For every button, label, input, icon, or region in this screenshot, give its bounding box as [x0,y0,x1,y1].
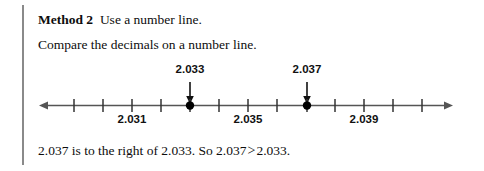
point-marker-2037 [303,101,311,109]
tick-label-2035: 2.035 [234,113,263,125]
number-line-example-panel: Method 2 Use a number line. Compare the … [0,0,484,171]
tick-label-2039: 2.039 [350,113,379,125]
conclusion-prefix: 2.037 is to the right of 2.033. So 2.037 [38,143,247,158]
compare-instruction: Compare the decimals on a number line. [38,38,257,52]
axis-arrow-right [444,102,453,110]
point-marker-2033 [186,101,194,109]
number-line-svg [0,58,484,138]
conclusion-suffix: 2.033. [256,143,290,158]
greater-than-symbol: > [247,143,257,158]
method-heading: Method 2 Use a number line. [38,13,202,27]
method-label: Method 2 [38,12,93,27]
number-line-diagram: 2.033 2.037 [0,58,484,138]
axis-arrow-left [39,102,48,110]
point-label-2037: 2.037 [293,63,322,75]
method-instruction: Use a number line. [100,12,202,27]
tick-label-2031: 2.031 [118,113,147,125]
conclusion-statement: 2.037 is to the right of 2.033. So 2.037… [38,144,290,158]
point-label-2033: 2.033 [176,63,205,75]
